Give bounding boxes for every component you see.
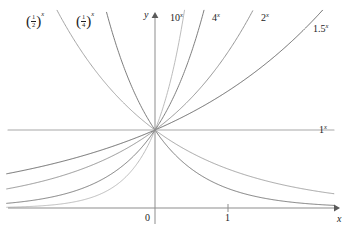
x-tick-label-1: 1 xyxy=(225,213,230,223)
exponential-functions-figure: (12)x (14)x 10x 4x 2x 1.5x 1x y x 0 1 xyxy=(0,0,351,241)
y-axis-arrow xyxy=(152,12,159,18)
fraction-one-quarter: (14) xyxy=(76,14,91,29)
curve-label-four: 4x xyxy=(212,12,220,23)
exponent-x: x xyxy=(324,123,327,130)
curve-4-x xyxy=(7,10,204,203)
curve-label-one-quarter: (14)x xyxy=(76,14,94,29)
curve-1-2-x xyxy=(57,10,334,193)
curves-group xyxy=(7,10,334,207)
curve-label-one-point-five: 1.5x xyxy=(313,23,328,34)
exponent-x: x xyxy=(326,22,329,29)
curve-label-two: 2x xyxy=(261,12,269,23)
y-axis-label: y xyxy=(144,10,148,20)
curve-label-ten: 10x xyxy=(170,12,183,23)
curve-label-one-half: (12)x xyxy=(26,14,44,29)
curve-label-one: 1x xyxy=(319,124,327,135)
origin-tick-label: 0 xyxy=(145,213,150,223)
exponent-x: x xyxy=(41,10,44,17)
curve-1-4-x xyxy=(107,12,334,205)
base-value: 1.5 xyxy=(313,23,326,34)
x-axis-label: x xyxy=(337,214,341,224)
base-value: 10 xyxy=(170,12,180,23)
exponent-x: x xyxy=(217,11,220,18)
x-axis-arrow xyxy=(334,205,340,212)
exponent-x: x xyxy=(266,11,269,18)
curve-2-x xyxy=(7,11,253,189)
fraction-one-half: (12) xyxy=(26,14,41,29)
curve-1-5-x xyxy=(7,10,323,174)
exponent-x: x xyxy=(91,10,94,17)
exponent-x: x xyxy=(180,11,183,18)
curve-10-x xyxy=(7,10,185,207)
plot-area xyxy=(0,0,351,241)
axes-group xyxy=(8,12,340,224)
